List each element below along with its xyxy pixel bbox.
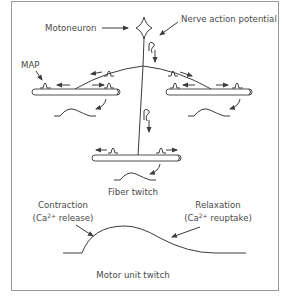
nerve-action-potential-label: Nerve action potential xyxy=(181,14,277,24)
curved-arrow-icon xyxy=(96,99,106,109)
left-fiber-twitch-curve xyxy=(54,109,96,116)
map-label: MAP xyxy=(21,60,39,70)
curved-arrow-icon xyxy=(230,99,240,109)
bottom-fiber-twitch-curve xyxy=(114,173,156,180)
nerve-ap-waveform-top-icon xyxy=(149,42,155,53)
left-nerve-branch xyxy=(75,66,143,89)
right-muscle-fiber xyxy=(166,89,252,95)
left-arrow-icon xyxy=(91,72,102,74)
contraction-arrow-icon xyxy=(76,225,93,236)
relaxation-arrow-icon xyxy=(172,227,200,237)
right-nerve-branch xyxy=(143,66,211,89)
motor-unit-diagram: Motoneuron Nerve action potential MAP xyxy=(0,0,287,298)
fiber-twitch-label: Fiber twitch xyxy=(108,187,158,197)
motoneuron-cell-icon xyxy=(136,17,152,39)
nerve-ap-arrow-icon xyxy=(160,22,178,35)
motor-unit-twitch-label: Motor unit twitch xyxy=(96,270,169,280)
motoneuron-label: Motoneuron xyxy=(45,23,97,33)
map-spike-icon xyxy=(104,83,114,88)
curved-arrow-icon xyxy=(150,164,160,174)
right-fiber-twitch-curve xyxy=(188,109,230,116)
map-spike-icon xyxy=(232,83,243,88)
map-spike-icon xyxy=(170,83,180,88)
map-spike-icon xyxy=(156,148,166,153)
map-spike-icon xyxy=(40,83,51,88)
relaxation-detail-label: (Ca2+ reuptake) xyxy=(184,212,252,223)
axon xyxy=(138,39,144,156)
contraction-detail-label: (Ca2+ release) xyxy=(33,212,94,223)
relaxation-label: Relaxation xyxy=(195,200,240,210)
contraction-label: Contraction xyxy=(38,200,88,210)
nerve-ap-waveform-lower-icon xyxy=(144,109,150,121)
motor-unit-twitch-curve xyxy=(63,226,246,253)
left-muscle-fiber xyxy=(32,89,120,95)
figure-frame xyxy=(12,2,279,291)
bottom-muscle-fiber xyxy=(92,155,181,161)
map-spike-icon xyxy=(108,148,118,153)
map-arrow-icon xyxy=(36,71,42,80)
